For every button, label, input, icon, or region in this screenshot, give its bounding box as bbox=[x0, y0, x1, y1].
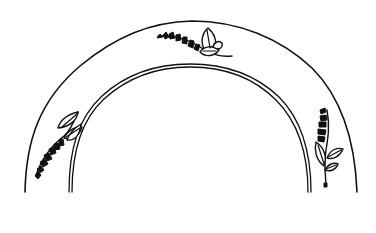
inner-rim-arc-outer-line bbox=[69, 64, 311, 192]
plate-rim-illustration: Plate rim line drawing with floral sprig… bbox=[0, 0, 376, 233]
left-sprig-icon bbox=[35, 112, 82, 179]
top-sprig-icon bbox=[157, 28, 232, 56]
plate-rim-drawing bbox=[0, 0, 376, 233]
inner-rim-arc-inner-line bbox=[72, 67, 308, 192]
right-sprig-icon bbox=[315, 108, 343, 187]
